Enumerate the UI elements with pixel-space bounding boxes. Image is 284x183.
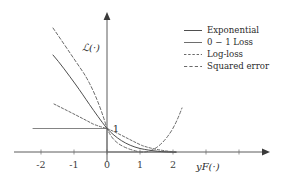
y-axis-arrow-icon [104, 12, 111, 20]
x-tick-label: 0 [104, 159, 110, 170]
plot-canvas: -2 -1 0 1 2 1 ℒ(·) yF(·) Exponentia [0, 0, 284, 183]
series-exponential [53, 55, 176, 152]
x-tick-labels: -2 -1 0 1 2 [36, 159, 176, 170]
curves-group [33, 28, 182, 152]
legend-item-zero-one-loss[interactable]: 0 − 1 Loss [184, 37, 253, 47]
legend-label-squared-error: Squared error [207, 61, 270, 71]
x-tick-label: 2 [170, 159, 176, 170]
x-tick-label: -1 [69, 159, 78, 170]
legend-item-log-loss[interactable]: Log-loss [184, 49, 243, 59]
x-axis-arrow-icon [262, 149, 270, 156]
loss-function-figure: -2 -1 0 1 2 1 ℒ(·) yF(·) Exponentia [0, 0, 284, 183]
x-tick-label: -2 [36, 159, 45, 170]
legend-item-squared-error[interactable]: Squared error [184, 61, 270, 71]
legend-label-zero-one-loss: 0 − 1 Loss [207, 37, 253, 47]
x-axis-title: yF(·) [195, 161, 220, 172]
x-tick-label: 1 [137, 159, 143, 170]
legend: Exponential 0 − 1 Loss Log-loss Squared … [184, 25, 270, 71]
legend-label-exponential: Exponential [207, 25, 259, 35]
legend-label-log-loss: Log-loss [207, 49, 243, 59]
legend-item-exponential[interactable]: Exponential [184, 25, 259, 35]
origin-one-label: 1 [113, 123, 119, 134]
y-axis-title: ℒ(·) [82, 42, 100, 53]
